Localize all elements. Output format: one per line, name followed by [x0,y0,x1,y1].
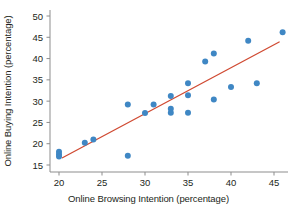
data-point [168,93,174,99]
data-point [228,84,234,90]
data-point [185,80,191,86]
data-point [185,110,191,116]
data-point [125,102,131,108]
data-point [90,136,96,142]
data-point [280,29,286,35]
data-point [142,110,148,116]
data-points [56,29,286,159]
scatter-plot-figure: Online Buying Intention (percentage) Onl… [0,0,297,213]
axis-tick-marks [47,16,275,176]
data-point [168,110,174,116]
data-point [82,140,88,146]
data-point [185,92,191,98]
data-point [125,153,131,159]
data-point [56,153,62,159]
data-point [211,96,217,102]
data-point [245,38,251,44]
data-point [202,59,208,65]
plot-area [0,0,297,213]
data-point [151,102,157,108]
data-point [254,80,260,86]
axis-lines [50,10,288,172]
data-point [211,50,217,56]
